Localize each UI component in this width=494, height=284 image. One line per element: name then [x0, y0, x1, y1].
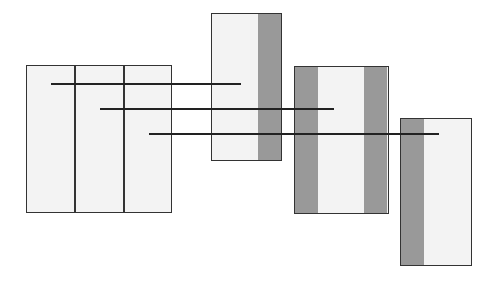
column-divider-2: [123, 66, 125, 212]
dark-strip-right: [364, 67, 387, 213]
connector-line-3: [149, 133, 439, 135]
column-divider-1: [74, 66, 76, 212]
source-box: [26, 65, 172, 213]
dark-strip-left: [295, 67, 318, 213]
target-box-3: [400, 118, 472, 266]
target-box-1: [211, 13, 282, 161]
dark-strip: [401, 119, 424, 265]
target-box-2: [294, 66, 389, 214]
connector-line-2: [100, 108, 334, 110]
connector-line-1: [51, 83, 241, 85]
dark-strip: [258, 14, 281, 160]
